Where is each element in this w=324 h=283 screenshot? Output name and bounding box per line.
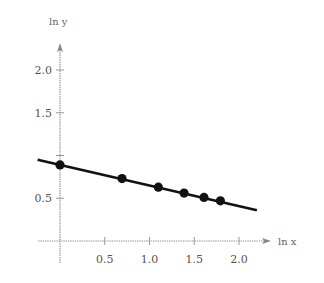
data-point [179, 189, 188, 198]
y-axis-label: ln y [49, 16, 68, 27]
y-tick-label: 2.0 [35, 64, 53, 77]
x-tick-label: 0.5 [96, 253, 114, 266]
x-axis-arrow-icon [262, 238, 271, 244]
x-tick-label: 1.0 [141, 253, 159, 266]
x-axis-label: ln x [278, 236, 297, 247]
y-tick-label: 1.5 [35, 107, 53, 120]
x-tick-label: 2.0 [230, 253, 248, 266]
y-tick-label: 0.5 [35, 192, 53, 205]
data-point [117, 174, 126, 183]
data-point [216, 196, 225, 205]
x-tick-label: 1.5 [186, 253, 204, 266]
data-point [154, 183, 163, 192]
data-point [199, 193, 208, 202]
chart: 0.51.01.52.0 0.51.52.0 ln x ln y [0, 0, 324, 283]
axes [38, 43, 271, 263]
data-point [55, 160, 64, 169]
